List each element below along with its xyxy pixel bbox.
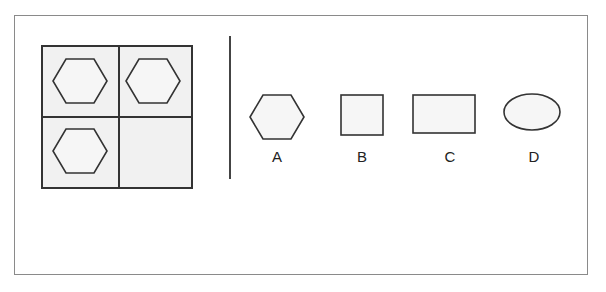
- option-c-rectangle-icon[interactable]: [412, 94, 476, 134]
- section-divider: [229, 36, 231, 179]
- grid-cell-top-left-hexagon-icon: [52, 58, 108, 104]
- option-b-square-icon[interactable]: [340, 94, 384, 136]
- option-d-label[interactable]: D: [519, 148, 549, 165]
- grid-cell-top-right-hexagon-icon: [125, 58, 181, 104]
- option-c-label[interactable]: C: [435, 148, 465, 165]
- option-b-label[interactable]: B: [347, 148, 377, 165]
- option-a-hexagon-icon[interactable]: [249, 94, 305, 140]
- option-d-ellipse-icon[interactable]: [503, 93, 561, 131]
- grid-cell-bottom-right-empty: [118, 116, 191, 187]
- option-a-label[interactable]: A: [262, 148, 292, 165]
- grid-cell-bottom-left-hexagon-icon: [52, 128, 108, 174]
